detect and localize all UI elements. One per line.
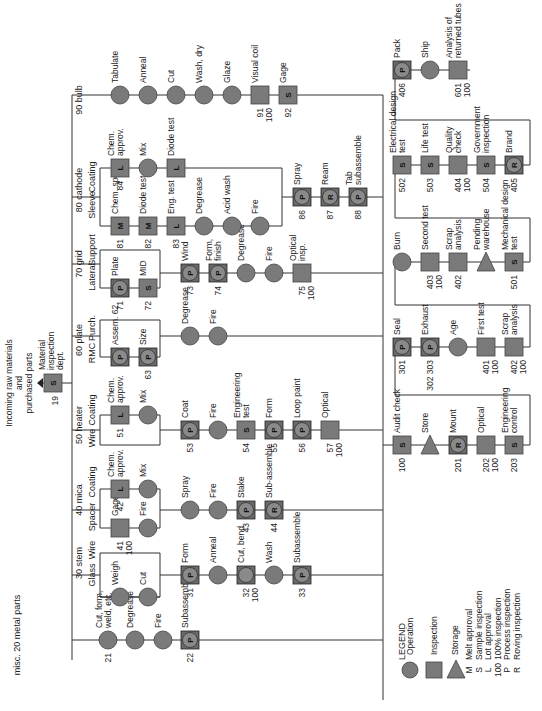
node-label: MID [138,260,148,276]
node-square: SEngineeringcontrol203 [500,387,524,472]
node-label: Optical [320,391,330,418]
inspection-code: P [186,637,195,643]
node-label: Glaze [222,61,232,83]
legend-code-label: Roving inspection [512,593,522,660]
node-number: 86 [297,210,307,220]
node-square: SGovernmentinspection504 [472,106,496,193]
operation-icon [209,566,227,584]
node-label: Fire [208,483,218,498]
column-header: 90 bulb [74,85,84,115]
inspection-code: P [298,427,307,433]
inspection-code: P [398,344,407,350]
node-circle: Mix [138,463,157,498]
operation-icon [139,480,157,498]
inspection-icon [251,86,269,104]
legend-code-label: Melt approval [464,609,474,660]
node-number: 72 [143,301,153,311]
node-combo: PPlate71 [110,256,129,310]
node-number: 54 [241,443,251,453]
inspection-code: R [270,507,279,513]
inspection-code: S [49,380,58,386]
node-label: Wash, dry [194,44,204,83]
node-number: 53 [185,443,195,453]
inspection-code: M [116,222,125,229]
node-label: Fire [153,613,163,628]
node-label: analysis [453,219,463,250]
node-label: test [241,404,251,418]
column-header: misc. 20 metal parts [12,594,22,675]
node-label: Acid wash [222,175,232,214]
node-circle: Cut [138,571,157,606]
operation-icon [223,86,241,104]
inspection-icon [111,519,129,537]
node-number: 44 [269,523,279,533]
legend-label: Operation [405,617,415,655]
node-number: 203 [509,458,519,472]
intake-inspection: Incoming raw materialsandpurchased parts… [4,331,65,426]
inspection-code: P [298,194,307,200]
node-square: LEng. test83 [166,180,185,249]
storage-icon [447,660,465,678]
operation-icon [195,86,213,104]
node-square: First test401100 [476,302,500,374]
inspection-code: M [144,222,153,229]
inspection-code: P [242,507,251,513]
node-label: Fire [138,501,148,516]
inspection-code: P [354,194,363,200]
node-label: Eng. test [166,180,176,214]
inspection-code: L [116,412,125,417]
sub-header: Glass [87,563,97,587]
operation-icon [239,568,254,583]
node-square: Optical202100 [476,406,500,472]
node-label: check [453,130,463,153]
intake-note-line2: and [14,376,24,390]
inspection-code: L [172,165,181,170]
legend: LEGENDOperationInspectionStorageMMelt ap… [397,588,522,678]
node-circle: Degrease [236,224,255,282]
node-label: Seal [392,318,402,335]
node-square: SAudit check100 [392,388,411,472]
node-number: 51 [115,428,125,438]
inspection-icon [449,156,467,174]
node-circle: Fire [208,309,227,345]
node-circle: Fire [250,199,269,235]
node-circle: Mix [138,142,157,177]
node-number: 503 [425,178,435,192]
node-label: Gage [278,62,288,83]
node-circle: Mix [138,389,157,424]
node-number: 33 [297,588,307,598]
node-label: Plate [110,256,120,276]
operation-icon [223,217,241,235]
node-label: Optical [476,406,486,433]
node-number: 42 [115,502,125,512]
node-combo: RSub-assemble44 [264,443,283,532]
node-label: First test [476,302,486,335]
inspection-code: S [510,442,519,448]
node-label: Brand [504,130,514,153]
node-label: Fire [208,309,218,324]
node-number: 56 [297,443,307,453]
node-label: Spray [180,475,190,498]
inspection-code: S [510,259,519,265]
node-combo: PCoat53 [180,399,199,452]
node-square: SEngineeringtest54 [232,372,256,452]
node-square: SLife test503 [420,123,439,193]
node-label: Ream [320,162,330,185]
legend-code: 100 [493,663,503,677]
node-inspection-100: 100 [264,108,274,122]
node-label: Cut [166,69,176,83]
node-label: Weigh [110,561,120,585]
operation-icon [126,631,144,649]
node-label: Wash [264,541,274,563]
node-label: warehouse [481,208,491,251]
intake-note-line1: Incoming raw materials [4,339,14,426]
sub-header: Wire [87,541,97,560]
node-combo: PSize63 [138,328,157,379]
legend-code-label: Lot approval [483,613,493,660]
node-number: 301 [397,360,407,374]
node-number: 55 [269,443,279,453]
node-square: Optical57100 [320,391,344,457]
operation-icon [402,662,418,678]
sub-header: Support [87,234,97,266]
node-combo: RReam87 [320,162,339,219]
